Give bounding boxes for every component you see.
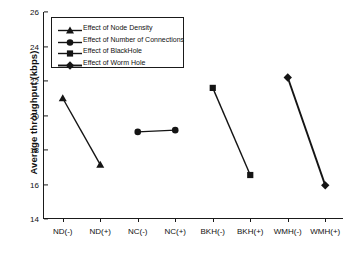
x-tick-label: NC(-): [128, 227, 148, 236]
legend-marker-circle-icon: [57, 34, 83, 45]
series-1: [134, 127, 178, 135]
data-point-triangle: [59, 94, 67, 101]
data-point-circle: [134, 129, 141, 136]
y-tick-label: 16: [30, 180, 44, 189]
x-tick-label: ND(-): [53, 227, 73, 236]
x-tick-label: ND(+): [89, 227, 111, 236]
x-tick-label: BKH(-): [201, 227, 225, 236]
legend-marker-triangle-icon: [57, 22, 83, 33]
y-tick-label: 14: [30, 215, 44, 224]
data-point-diamond: [321, 181, 329, 189]
series-line: [288, 78, 326, 186]
series-2: [210, 85, 254, 178]
throughput-line-chart: Average throughput (kbps) 14161820222426…: [0, 0, 363, 258]
data-point-square: [210, 85, 216, 91]
series-3: [284, 73, 330, 189]
y-tick-label: 22: [30, 77, 44, 86]
legend-item: Effect of BlackHole: [57, 45, 178, 56]
legend-label: Effect of Number of Connections: [83, 34, 184, 45]
y-tick-label: 24: [30, 42, 44, 51]
x-tick-label: WMH(+): [310, 227, 340, 236]
legend-marker-diamond-icon: [57, 57, 83, 68]
legend-item: Effect of Node Density: [57, 22, 178, 33]
data-point-diamond: [66, 61, 74, 69]
legend: Effect of Node DensityEffect of Number o…: [51, 17, 184, 68]
y-tick-label: 26: [30, 8, 44, 17]
x-tick-label: BKH(+): [237, 227, 263, 236]
series-0: [59, 94, 105, 168]
series-line: [63, 98, 101, 164]
data-point-diamond: [284, 73, 292, 81]
series-line: [213, 88, 251, 175]
legend-item: Effect of Worm Hole: [57, 57, 178, 68]
series-line: [138, 130, 176, 132]
legend-label: Effect of BlackHole: [83, 45, 142, 56]
data-point-triangle: [96, 161, 104, 168]
x-tick-label: NC(+): [164, 227, 186, 236]
data-point-square: [247, 172, 253, 178]
y-tick-label: 20: [30, 111, 44, 120]
x-tick-label: WMH(-): [274, 227, 302, 236]
legend-marker-square-icon: [57, 45, 83, 56]
y-tick-label: 18: [30, 146, 44, 155]
legend-item: Effect of Number of Connections: [57, 34, 178, 45]
legend-label: Effect of Worm Hole: [83, 57, 145, 68]
legend-label: Effect of Node Density: [83, 22, 153, 33]
data-point-circle: [172, 127, 179, 134]
